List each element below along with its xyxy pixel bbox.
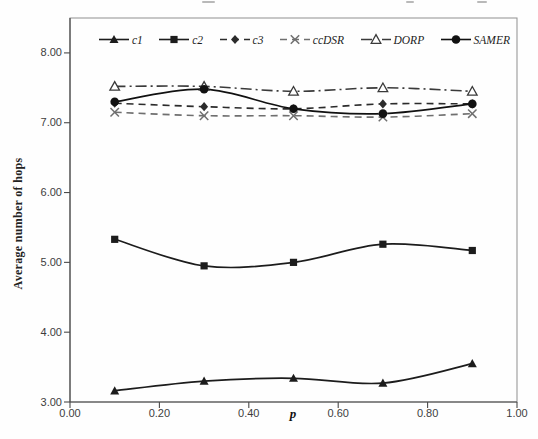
legend-sample-c3 <box>219 33 251 46</box>
legend: c1c2c3ccDSRDORPSAMER <box>98 33 510 46</box>
square-filled-marker <box>171 36 178 43</box>
x-tick-label: 0.40 <box>229 407 269 419</box>
y-axis-title: Average number of hops <box>11 124 26 324</box>
legend-label-DORP: DORP <box>394 34 425 46</box>
y-tick-label: 6.00 <box>28 186 62 198</box>
legend-sample-ccDSR <box>279 33 311 46</box>
x-tick-label: 0.20 <box>139 407 179 419</box>
legend-sample-DORP <box>360 33 392 46</box>
x-tick-label: 0.00 <box>50 407 90 419</box>
legend-item-SAMER: SAMER <box>440 33 510 46</box>
square-filled-marker <box>469 247 476 254</box>
x-tick-label: 1.00 <box>497 407 537 419</box>
square-filled-marker <box>201 262 208 269</box>
legend-sample-c2 <box>158 33 190 46</box>
y-tick-label: 8.00 <box>28 46 62 58</box>
x-tick-label: 0.60 <box>318 407 358 419</box>
x-tick-label: 0.80 <box>408 407 448 419</box>
diamond-filled-marker <box>200 102 208 111</box>
triangle-open-marker <box>468 87 478 96</box>
circle-filled-marker <box>468 100 477 109</box>
square-filled-marker <box>290 259 297 266</box>
plot-border <box>70 18 517 402</box>
legend-label-ccDSR: ccDSR <box>313 34 344 46</box>
legend-item-ccDSR: ccDSR <box>279 33 344 46</box>
y-tick-label: 5.00 <box>28 256 62 268</box>
legend-item-DORP: DORP <box>360 33 425 46</box>
circle-filled-marker <box>200 85 209 94</box>
legend-item-c1: c1 <box>98 33 143 46</box>
diamond-filled-marker <box>379 99 387 108</box>
diamond-filled-marker <box>231 35 239 44</box>
y-tick-label: 3.00 <box>28 396 62 408</box>
circle-filled-marker <box>451 35 460 44</box>
circle-filled-marker <box>379 109 388 118</box>
legend-item-c2: c2 <box>158 33 203 46</box>
circle-filled-marker <box>110 97 119 106</box>
x-axis-title: p <box>283 406 303 422</box>
legend-label-SAMER: SAMER <box>474 34 510 46</box>
triangle-open-marker <box>378 83 388 92</box>
square-filled-marker <box>111 236 118 243</box>
legend-item-c3: c3 <box>219 33 264 46</box>
legend-label-c1: c1 <box>132 34 143 46</box>
legend-sample-SAMER <box>440 33 472 46</box>
legend-sample-c1 <box>98 33 130 46</box>
y-tick-label: 4.00 <box>28 326 62 338</box>
y-tick-label: 7.00 <box>28 116 62 128</box>
plot-canvas <box>0 0 538 439</box>
triangle-filled-marker <box>468 359 477 367</box>
legend-label-c2: c2 <box>192 34 203 46</box>
legend-label-c3: c3 <box>253 34 264 46</box>
hops-vs-p-chart-figure: Average number of hops p c1c2c3ccDSRDORP… <box>0 0 538 439</box>
square-filled-marker <box>379 241 386 248</box>
triangle-open-marker <box>371 35 381 44</box>
circle-filled-marker <box>289 104 298 113</box>
